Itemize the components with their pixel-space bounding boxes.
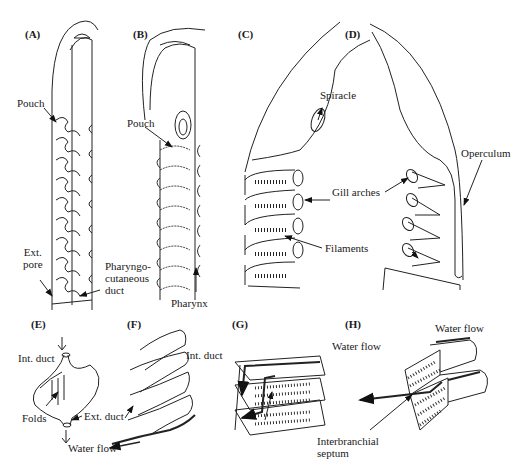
- panel-label-c: (C): [238, 28, 253, 40]
- label-filaments: Filaments: [325, 242, 368, 254]
- panel-b-drawing: [142, 28, 205, 300]
- label-a-ext-pore: Ext. pore: [23, 246, 43, 270]
- panel-g-drawing: [235, 356, 325, 435]
- label-gill-arches: Gill arches: [332, 186, 380, 198]
- panel-label-b: (B): [133, 28, 148, 40]
- label-e-water-flow: Water flow: [68, 442, 117, 454]
- label-e-ext-duct: Ext. duct: [84, 410, 124, 422]
- label-d-operculum: Operculum: [461, 147, 510, 159]
- gill-anatomy-illustration: [0, 0, 523, 475]
- label-f-int-duct: Int. duct: [186, 349, 223, 361]
- label-g-water-flow: Water flow: [332, 340, 381, 352]
- panel-label-e: (E): [31, 318, 46, 330]
- panel-f-drawing: [110, 330, 195, 448]
- label-a-pharyngocutaneous-duct: Pharyngo- cutaneous duct: [105, 260, 151, 296]
- label-e-folds: Folds: [22, 412, 46, 424]
- label-g-interbranchial-septum: Interbranchial septum: [317, 435, 379, 459]
- label-a-pouch: Pouch: [17, 97, 45, 109]
- panel-label-g: (G): [232, 318, 248, 330]
- label-b-pouch: Pouch: [127, 117, 155, 129]
- label-b-pharynx: Pharynx: [171, 297, 208, 309]
- label-h-water-flow: Water flow: [435, 322, 484, 334]
- panel-a-drawing: [40, 21, 100, 310]
- label-e-int-duct: Int. duct: [18, 352, 55, 364]
- panel-label-h: (H): [345, 318, 361, 330]
- panel-label-f: (F): [127, 318, 141, 330]
- label-c-spiracle: Spiracle: [320, 89, 356, 101]
- panel-label-d: (D): [345, 28, 360, 40]
- panel-label-a: (A): [25, 28, 40, 40]
